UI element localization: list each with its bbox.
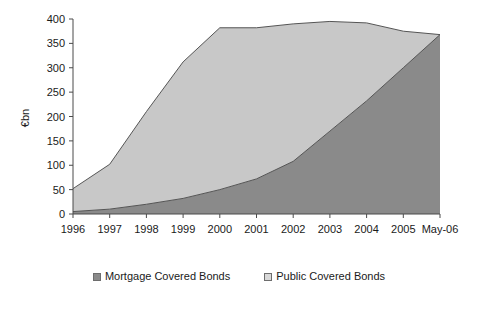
y-axis-tick-label: 350 — [47, 37, 65, 49]
x-axis-tick-label: 1999 — [171, 223, 195, 235]
chart-legend: Mortgage Covered Bonds Public Covered Bo… — [0, 271, 478, 282]
x-axis-tick-label: 2004 — [354, 223, 378, 235]
chart-container: 050100150200250300350400 199619971998199… — [0, 0, 478, 312]
y-axis-title: €bn — [19, 109, 31, 127]
x-axis-tick-label: 2003 — [318, 223, 342, 235]
x-axis-tick-label: 2000 — [208, 223, 232, 235]
y-axis-ticks — [69, 19, 73, 214]
x-axis-tick-label: 1997 — [97, 223, 121, 235]
legend-item-public-covered-bonds[interactable]: Public Covered Bonds — [264, 271, 385, 282]
area-chart: 050100150200250300350400 199619971998199… — [0, 0, 478, 312]
x-axis-tick-label: 2001 — [244, 223, 268, 235]
y-axis-tick-label: 200 — [47, 111, 65, 123]
y-axis-tick-label: 0 — [59, 208, 65, 220]
y-axis-tick-labels: 050100150200250300350400 — [47, 13, 65, 220]
legend-label: Mortgage Covered Bonds — [105, 271, 230, 282]
y-axis-tick-label: 100 — [47, 159, 65, 171]
legend-item-mortgage-covered-bonds[interactable]: Mortgage Covered Bonds — [93, 271, 230, 282]
y-axis-tick-label: 300 — [47, 62, 65, 74]
x-axis-tick-labels: 1996199719981999200020012002200320042005… — [61, 223, 459, 235]
x-axis-tick-label: 1996 — [61, 223, 85, 235]
x-axis-tick-label: 2005 — [391, 223, 415, 235]
y-axis-tick-label: 400 — [47, 13, 65, 25]
y-axis-tick-label: 250 — [47, 86, 65, 98]
y-axis-tick-label: 150 — [47, 135, 65, 147]
plot-areas — [73, 21, 440, 214]
legend-swatch-icon — [264, 273, 272, 281]
x-axis-tick-label: May-06 — [422, 223, 459, 235]
y-axis-tick-label: 50 — [53, 184, 65, 196]
legend-label: Public Covered Bonds — [276, 271, 385, 282]
x-axis-tick-label: 1998 — [134, 223, 158, 235]
x-axis-tick-label: 2002 — [281, 223, 305, 235]
x-axis-ticks — [73, 214, 440, 218]
legend-swatch-icon — [93, 273, 101, 281]
